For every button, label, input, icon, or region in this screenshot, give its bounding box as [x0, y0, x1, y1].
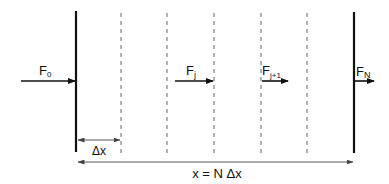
flux-label-fn: FN [356, 64, 370, 80]
total-length-label: x = N Δx [192, 166, 242, 181]
cell-width-label: Δx [92, 144, 106, 158]
flux-label-f0: F0 [39, 63, 52, 79]
flux-label-fj1: Fj+1 [262, 63, 281, 80]
cell-boundaries [121, 13, 307, 155]
flux-diagram: F0 Fj Fj+1 FN Δx x = N Δx [0, 0, 389, 184]
flux-label-fj: Fj [186, 63, 196, 80]
